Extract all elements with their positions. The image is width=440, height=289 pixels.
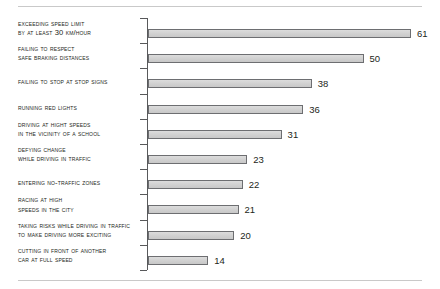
category-label-line: Racing at high	[18, 195, 144, 204]
bar-row: Failing to stop at stop signs38	[0, 68, 440, 93]
category-label-line: Driving at hight speeds	[18, 120, 144, 129]
bar-value-label: 50	[370, 54, 381, 64]
category-label-line: by at least 30 km/hour	[18, 28, 144, 37]
bar-row: Entering no-traffic zones22	[0, 169, 440, 194]
category-label-line: Cutting in front of another	[18, 246, 144, 255]
bar-rows: Exceeding speed limitby at least 30 km/h…	[0, 18, 440, 270]
axis-tick-end	[140, 270, 147, 271]
category-label-line: Defying change	[18, 145, 144, 154]
bar	[148, 205, 239, 214]
category-label: Failing to stop at stop signs	[18, 77, 144, 86]
category-label-line: car at full speed	[18, 255, 144, 264]
axis-tick	[140, 169, 147, 170]
category-label: Failing to respectsafe braking distances	[18, 44, 144, 62]
bar-row: Failing to respectsafe braking distances…	[0, 43, 440, 68]
bar-value-label: 22	[249, 180, 260, 190]
category-label: Running red lights	[18, 103, 144, 112]
bar	[148, 256, 208, 265]
axis-tick	[140, 68, 147, 69]
category-label-line: speeds in the city	[18, 205, 144, 214]
bar-value-label: 36	[309, 105, 320, 115]
bar-row: Taking risks while driving in trafficto …	[0, 220, 440, 245]
category-label: Entering no-traffic zones	[18, 178, 144, 187]
category-label: Driving at hight speedsin the vicinity o…	[18, 120, 144, 138]
bar-row: Running red lights36	[0, 94, 440, 119]
bar-chart-figure: Exceeding speed limitby at least 30 km/h…	[0, 0, 440, 289]
bar-value-label: 23	[253, 155, 264, 165]
bar-value-label: 38	[318, 79, 329, 89]
top-divider-rule	[18, 6, 422, 7]
bar	[148, 155, 247, 164]
bar-value-label: 14	[214, 256, 225, 266]
bar	[148, 79, 312, 88]
category-label-line: to make driving more exciting	[18, 230, 144, 239]
bar	[148, 105, 303, 114]
bar-value-label: 20	[240, 231, 251, 241]
category-label: Taking risks while driving in trafficto …	[18, 221, 144, 239]
bar	[148, 231, 234, 240]
bar	[148, 130, 282, 139]
bar-row: Exceeding speed limitby at least 30 km/h…	[0, 18, 440, 43]
category-label: Exceeding speed limitby at least 30 km/h…	[18, 19, 144, 37]
category-label-line: Taking risks while driving in traffic	[18, 221, 144, 230]
bottom-divider-rule	[18, 280, 422, 281]
category-label-line: Entering no-traffic zones	[18, 178, 144, 187]
category-label-line: safe braking distances	[18, 53, 144, 62]
category-label: Cutting in front of anothercar at full s…	[18, 246, 144, 264]
bar	[148, 180, 243, 189]
category-label: Defying changewhile driving in traffic	[18, 145, 144, 163]
bar-row: Defying changewhile driving in traffic23	[0, 144, 440, 169]
bar-row: Driving at hight speedsin the vicinity o…	[0, 119, 440, 144]
bar	[148, 54, 364, 63]
category-label-line: Running red lights	[18, 103, 144, 112]
axis-tick	[140, 94, 147, 95]
bar-value-label: 21	[245, 205, 256, 215]
bar-row: Racing at highspeeds in the city21	[0, 194, 440, 219]
category-label-line: Exceeding speed limit	[18, 19, 144, 28]
bar	[148, 29, 411, 38]
category-label-line: while driving in traffic	[18, 154, 144, 163]
category-label-line: in the vicinity of a school	[18, 129, 144, 138]
category-label: Racing at highspeeds in the city	[18, 195, 144, 213]
category-label-line: Failing to stop at stop signs	[18, 77, 144, 86]
category-label-line: Failing to respect	[18, 44, 144, 53]
bar-value-label: 31	[288, 130, 299, 140]
bar-value-label: 61	[417, 29, 428, 39]
bar-row: Cutting in front of anothercar at full s…	[0, 245, 440, 270]
plot-area: Exceeding speed limitby at least 30 km/h…	[0, 18, 440, 270]
